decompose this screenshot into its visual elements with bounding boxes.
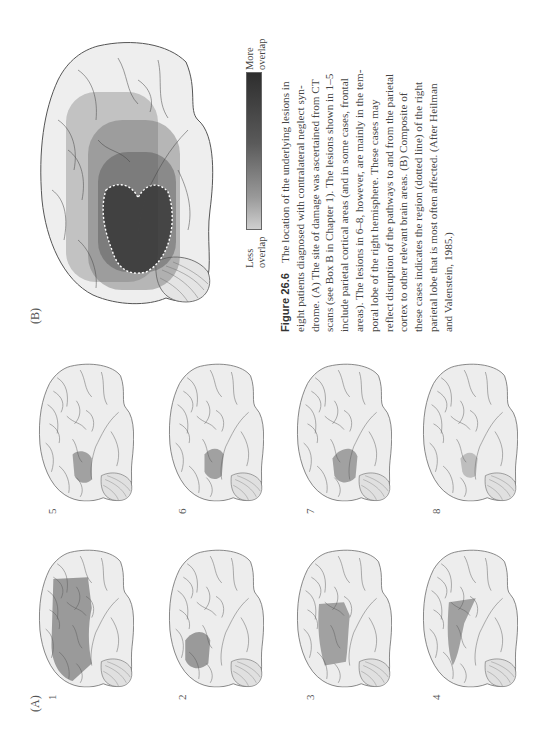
figure-caption: Figure 26.6The location of the underlyin… (278, 30, 468, 332)
case-label-6: 6 (176, 509, 188, 515)
case-label-5: 5 (46, 509, 58, 515)
brain-case-3 (296, 548, 392, 688)
caption-line-8: reflect disruption of the pathways to an… (382, 30, 397, 332)
composite-brain (38, 40, 218, 308)
brain-case-6 (168, 362, 264, 502)
legend-more-label: More overlap (244, 39, 268, 71)
legend-more-line1: More (244, 47, 255, 70)
caption-line-4: scans (see Box B in Chapter 1). The lesi… (322, 30, 337, 332)
case-label-2: 2 (176, 695, 188, 701)
case-label-7: 7 (304, 509, 316, 515)
figure-number: Figure 26.6 (279, 273, 291, 332)
caption-line-5: include parietal cortical areas (and in … (337, 30, 352, 332)
legend-less-label: Less overlap (244, 237, 268, 269)
overlap-gradient-bar (246, 72, 262, 230)
caption-line-6: areas). The lesions in 6–8, however, are… (352, 30, 367, 332)
caption-line-2: eight patients diagnosed with contralate… (293, 30, 308, 332)
panel-b-label: (B) (28, 308, 43, 324)
legend-less-line2: overlap (256, 237, 267, 269)
case-label-1: 1 (46, 695, 58, 701)
brain-case-7 (296, 362, 392, 502)
case-label-3: 3 (304, 695, 316, 701)
case-label-8: 8 (430, 509, 442, 515)
case-label-4: 4 (430, 695, 442, 701)
panel-a-label: (A) (28, 695, 43, 712)
caption-line-7: poral lobe of the right hemisphere. Thes… (367, 30, 382, 332)
caption-line-3: drome. (A) The site of damage was ascert… (308, 30, 323, 332)
caption-line-11: parietal lobe that is most often affecte… (426, 30, 441, 332)
caption-line-1: Figure 26.6The location of the underlyin… (278, 30, 293, 332)
legend-less-line1: Less (244, 249, 255, 268)
caption-line-9: cortex to other relevant brain areas. (B… (396, 30, 411, 332)
caption-line-12: and Valenstein, 1985.) (441, 30, 456, 332)
caption-line-10: these cases indicates the region (dotted… (411, 30, 426, 332)
brain-case-2 (168, 548, 264, 688)
brain-case-8 (422, 362, 518, 502)
legend-more-line2: overlap (256, 39, 267, 71)
brain-case-1 (38, 548, 134, 688)
brain-case-4 (422, 548, 518, 688)
brain-case-5 (38, 362, 134, 502)
